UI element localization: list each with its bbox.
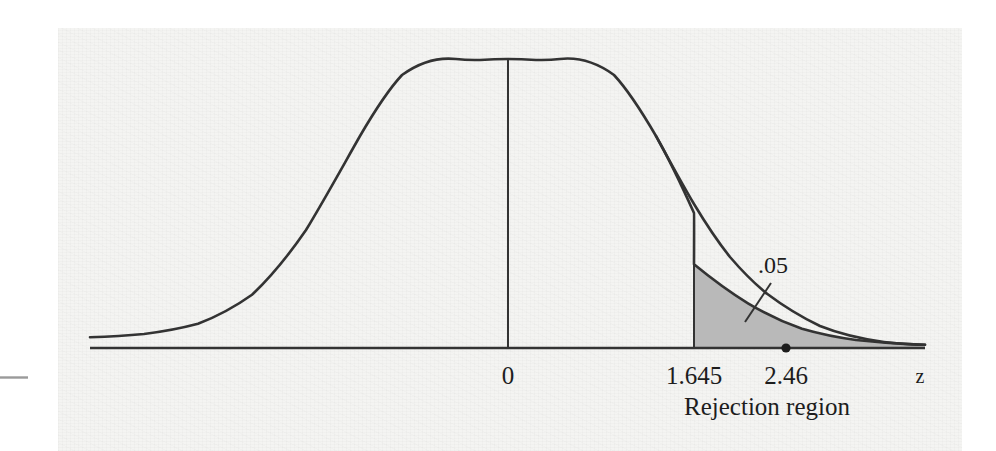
normal-distribution-rejection-region-chart	[0, 0, 996, 451]
normal-curve-right-shoulder	[656, 136, 766, 293]
tick-label-critical-value: 1.645	[666, 363, 722, 388]
tick-label-test-statistic: 2.46	[764, 363, 808, 388]
area-label: .05	[758, 253, 788, 277]
test-statistic-dot-marker	[781, 343, 790, 352]
tick-label-0: 0	[502, 363, 515, 388]
x-axis-label: z	[916, 366, 925, 386]
rejection-region-caption: Rejection region	[684, 394, 850, 419]
figure-page: .05 0 1.645 2.46 z Rejection region	[0, 0, 996, 451]
rejection-region-shading	[694, 264, 925, 348]
